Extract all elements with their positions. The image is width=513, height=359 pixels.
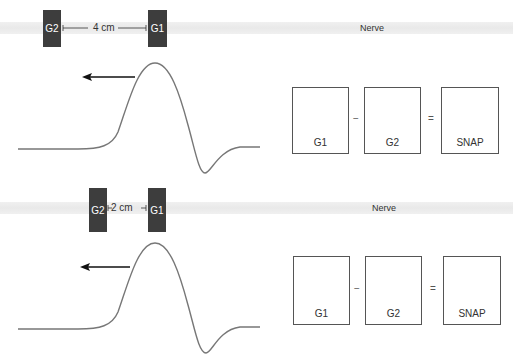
box-label: G1 <box>294 308 349 319</box>
arrow-left-icon <box>80 263 130 271</box>
waveform-main <box>18 243 260 353</box>
equation-box-snap: SNAP <box>443 256 501 325</box>
equation-box-g1: G1 <box>293 256 350 325</box>
distance-label: 2 cm <box>111 202 133 214</box>
minus-operator: − <box>354 283 360 294</box>
box-label: SNAP <box>444 308 500 319</box>
equals-operator: = <box>430 283 436 294</box>
equation-box-g2: G2 <box>365 256 422 325</box>
box-label: G2 <box>366 308 421 319</box>
panel-2cm-graphics <box>0 0 513 359</box>
